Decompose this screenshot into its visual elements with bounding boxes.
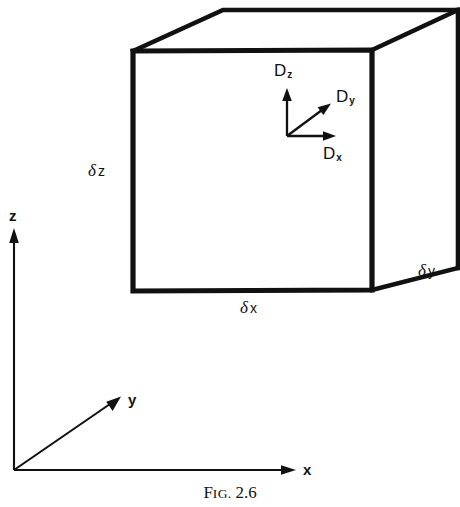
- cube-width-label: δx: [240, 299, 257, 316]
- figure-caption: FIG.2.6: [0, 483, 460, 503]
- D-y-vector-shaft: [287, 110, 322, 136]
- caption-figure-number: 2.6: [231, 483, 256, 502]
- y-axis-shaft: [14, 404, 110, 470]
- flux-vector-group: [282, 88, 336, 141]
- caption-fig-smallcaps: IG.: [213, 486, 232, 501]
- cube-bottom-right-receding-edge: [372, 268, 458, 290]
- D-x-vector-arrowhead: [323, 131, 336, 141]
- D-z-vector-label: Dz: [274, 62, 291, 79]
- D-z-vector-arrowhead: [282, 88, 292, 101]
- figure-container: Dz Dy Dx δz δx δy z y x FIG.2.6: [0, 0, 460, 507]
- y-axis-label: y: [128, 392, 136, 407]
- cube-top-right-receding-edge: [372, 10, 458, 50]
- figure-drawing-canvas: [0, 0, 460, 507]
- y-axis-arrowhead: [106, 397, 121, 411]
- x-axis-arrowhead: [281, 465, 296, 475]
- caption-fig-first-letter: F: [203, 483, 212, 502]
- z-axis-arrowhead: [9, 228, 19, 243]
- D-y-vector-label: Dy: [336, 88, 354, 105]
- D-x-vector-label: Dx: [323, 145, 341, 162]
- coordinate-axes-group: [9, 228, 296, 475]
- z-axis-label: z: [9, 208, 17, 223]
- D-y-vector-arrowhead: [318, 104, 331, 116]
- cube-depth-label: δy: [418, 262, 435, 279]
- x-axis-label: x: [303, 462, 311, 477]
- cube-height-label: δz: [88, 162, 105, 179]
